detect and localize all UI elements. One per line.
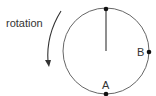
top-point-dot	[104, 7, 109, 12]
arrowhead-icon	[45, 60, 51, 67]
point-a-label: A	[102, 80, 109, 91]
rotation-label: rotation	[6, 18, 43, 29]
rotation-diagram	[0, 0, 156, 96]
point-a-dot	[104, 92, 109, 96]
rotation-arrow-icon	[48, 11, 61, 62]
point-b-dot	[147, 50, 152, 55]
point-b-label: B	[137, 47, 144, 58]
